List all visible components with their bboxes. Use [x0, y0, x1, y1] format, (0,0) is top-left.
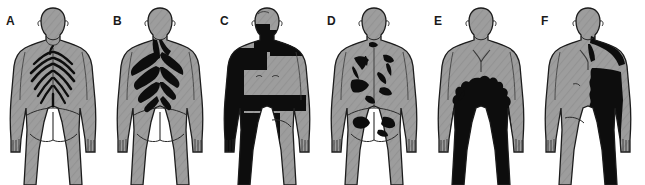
body-silhouette-f — [535, 0, 645, 185]
lesion-group-e — [450, 76, 512, 185]
body-silhouette-a — [0, 0, 107, 185]
hand-detail-b — [120, 139, 201, 152]
panel-label-b: B — [113, 15, 122, 27]
body-panel-d: D — [321, 0, 428, 185]
hand-detail-f — [548, 139, 629, 152]
body-panel-f: F — [535, 0, 645, 185]
body-panel-b: B — [107, 0, 214, 185]
hand-detail-e — [441, 139, 522, 152]
body-diagram-c — [214, 0, 321, 185]
body-panel-c: C — [214, 0, 321, 185]
body-diagram-d — [321, 0, 428, 185]
body-diagram-f — [535, 0, 645, 185]
body-silhouette-e — [428, 0, 535, 185]
hand-detail-d — [334, 139, 415, 152]
body-diagram-e — [428, 0, 535, 185]
body-silhouette-b — [107, 0, 214, 185]
hand-detail-a — [13, 139, 94, 152]
panel-label-a: A — [6, 15, 15, 27]
body-panel-a: A — [0, 0, 107, 185]
body-diagram-b — [107, 0, 214, 185]
body-silhouette-c — [214, 0, 321, 185]
hand-detail-c — [227, 139, 308, 152]
body-silhouette-d — [321, 0, 428, 185]
panel-label-e: E — [434, 15, 443, 27]
figure-panel: A — [0, 0, 645, 185]
panel-label-d: D — [327, 15, 336, 27]
lesion-group-c — [220, 24, 310, 185]
panel-label-f: F — [541, 15, 549, 27]
panel-label-c: C — [220, 15, 229, 27]
body-diagram-a — [0, 0, 107, 185]
body-panel-e: E — [428, 0, 535, 185]
